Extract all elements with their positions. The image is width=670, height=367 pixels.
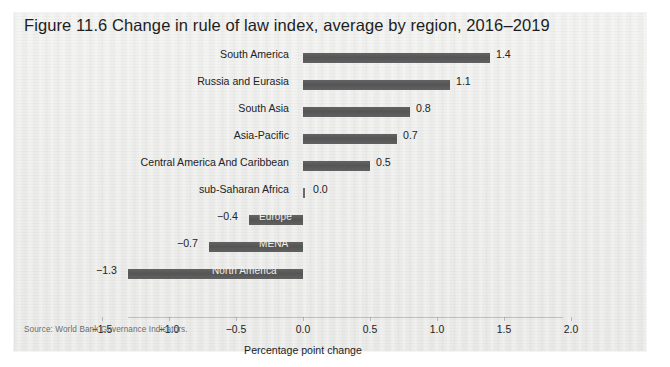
x-axis-tick xyxy=(370,317,371,321)
category-label: Europe xyxy=(259,211,292,222)
bar-central-america-and-caribbean xyxy=(303,161,370,171)
x-axis-tick-label: −0.5 xyxy=(226,324,247,335)
source-note: Source: World Bank Governance Indicators… xyxy=(24,325,188,334)
bar-chart-plot-area: South America 1.4 Russia and Eurasia 1.1… xyxy=(0,45,632,295)
x-axis-tick xyxy=(169,317,170,321)
figure-screenshot: Figure 11.6 Change in rule of law index,… xyxy=(0,0,670,367)
x-axis-tick xyxy=(437,317,438,321)
value-label: −1.3 xyxy=(96,264,117,276)
category-label: South America xyxy=(220,48,289,60)
bar-russia-and-eurasia xyxy=(303,80,450,90)
bar-row: Central America And Caribbean 0.5 xyxy=(0,153,632,180)
bar-south-asia xyxy=(303,107,410,117)
x-axis-tick-label: 0.5 xyxy=(363,324,377,335)
category-label: Central America And Caribbean xyxy=(141,156,289,168)
x-axis-line xyxy=(128,317,563,318)
x-axis-tick xyxy=(102,317,103,321)
bar-sub-saharan-africa xyxy=(303,188,305,198)
bar-row: Asia-Pacific 0.7 xyxy=(0,126,632,153)
bar-row: South Asia 0.8 xyxy=(0,99,632,126)
x-axis-tick xyxy=(571,317,572,321)
value-label: 1.4 xyxy=(496,48,511,60)
category-label: sub-Saharan Africa xyxy=(199,183,289,195)
figure-title: Figure 11.6 Change in rule of law index,… xyxy=(24,16,550,35)
bar-asia-pacific xyxy=(303,134,397,144)
bar-row: North America −1.3 xyxy=(0,261,632,288)
value-label: 1.1 xyxy=(456,75,471,87)
bar-row: Russia and Eurasia 1.1 xyxy=(0,72,632,99)
bar-row: MENA −0.7 xyxy=(0,234,632,261)
value-label: 0.0 xyxy=(313,183,328,195)
value-label: −0.4 xyxy=(217,210,238,222)
x-axis-tick xyxy=(504,317,505,321)
value-label: −0.7 xyxy=(177,237,198,249)
value-label: 0.7 xyxy=(403,129,418,141)
x-axis-tick-label: 0.0 xyxy=(296,324,310,335)
bar-south-america xyxy=(303,53,490,63)
bar-mena xyxy=(209,242,303,252)
bar-row: South America 1.4 xyxy=(0,45,632,72)
category-label: North America xyxy=(212,265,277,276)
x-axis-tick-label: 1.0 xyxy=(430,324,444,335)
category-label: MENA xyxy=(259,238,288,249)
value-label: 0.8 xyxy=(416,102,431,114)
x-axis-title: Percentage point change xyxy=(244,344,362,356)
category-label: South Asia xyxy=(238,102,289,114)
bar-row: sub-Saharan Africa 0.0 xyxy=(0,180,632,207)
category-label: Asia-Pacific xyxy=(234,129,289,141)
x-axis-tick-label: 2.0 xyxy=(564,324,578,335)
bar-row: Europe −0.4 xyxy=(0,207,632,234)
x-axis-tick xyxy=(303,317,304,321)
value-label: 0.5 xyxy=(376,156,391,168)
x-axis-tick xyxy=(236,317,237,321)
category-label: Russia and Eurasia xyxy=(197,75,289,87)
x-axis-tick-label: 1.5 xyxy=(497,324,511,335)
